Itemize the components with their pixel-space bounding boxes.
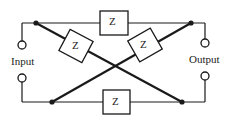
junction-dot-top-left: [33, 20, 38, 25]
impedance-label-diag-left: Z: [72, 39, 79, 51]
output-terminal-top: [201, 39, 209, 47]
input-terminal-bottom: [18, 74, 26, 82]
junction-dot-top-right: [188, 20, 193, 25]
output-label: Output: [189, 53, 220, 65]
impedance-label-top: Z: [109, 15, 116, 27]
junction-dot-bottom-right: [179, 99, 184, 104]
impedance-label-diag-right: Z: [140, 38, 147, 50]
input-terminal-top: [18, 41, 26, 49]
junction-dot-bottom-left: [49, 99, 54, 104]
input-label: Input: [11, 55, 34, 67]
output-terminal-bottom: [201, 72, 209, 80]
impedance-label-bottom: Z: [112, 95, 119, 107]
